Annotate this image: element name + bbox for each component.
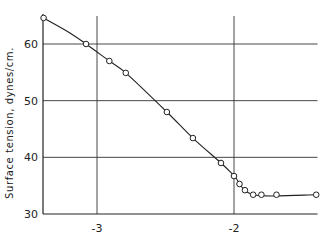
x-tick-label: -2	[229, 222, 240, 235]
x-tick-label: -3	[92, 222, 103, 235]
data-point	[274, 192, 280, 198]
data-point	[218, 160, 224, 166]
data-point	[83, 41, 89, 47]
data-point	[107, 58, 113, 64]
y-tick-label: 30	[24, 208, 38, 221]
data-point	[123, 70, 129, 76]
surface-tension-chart: 30405060-3-2 Surface tension, dynes/cm.	[0, 0, 327, 240]
data-point	[164, 109, 170, 115]
y-axis-title: Surface tension, dynes/cm.	[4, 47, 15, 199]
point-layer	[41, 15, 319, 197]
y-tick-label: 50	[24, 95, 38, 108]
label-layer: 30405060-3-2	[24, 38, 239, 235]
data-point	[237, 181, 243, 187]
data-point	[41, 15, 47, 21]
y-tick-label: 40	[24, 151, 38, 164]
data-point	[190, 135, 196, 141]
data-point	[231, 173, 237, 179]
data-point	[313, 192, 319, 198]
data-point	[242, 187, 248, 193]
data-point	[259, 192, 265, 198]
y-tick-label: 60	[24, 38, 38, 51]
data-point	[250, 192, 256, 198]
